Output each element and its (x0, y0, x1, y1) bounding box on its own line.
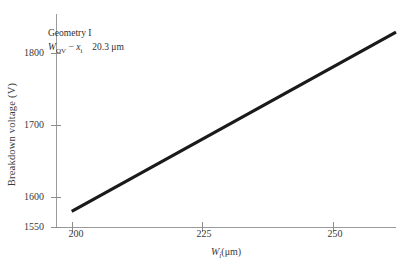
breakdown-voltage-chart: Breakdown voltage (V) 1800 1700 1600 155… (0, 0, 400, 269)
annotation-line-2: WOV − xi20.3 μm (48, 40, 124, 58)
x-axis-label-unit: (μm) (221, 246, 241, 257)
annotation-w-symbol: W (48, 42, 56, 52)
y-axis-label-text: Breakdown voltage (V) (6, 83, 17, 186)
x-axis-label-symbol: W (211, 246, 219, 257)
x-axis-label: Wi(μm) (56, 246, 396, 260)
annotation-line-1: Geometry I (48, 26, 124, 40)
annotation-x-subscript: i (80, 47, 82, 55)
annotation-value: 20.3 μm (92, 42, 123, 52)
chart-annotation: Geometry I WOV − xi20.3 μm (48, 26, 124, 58)
y-tick-label-1600: 1600 (24, 190, 44, 203)
annotation-w-subscript: OV (56, 47, 66, 55)
annotation-minus-sign: − (68, 42, 73, 52)
y-axis-label: Breakdown voltage (V) (0, 0, 22, 269)
y-tick-label-1550: 1550 (24, 220, 44, 233)
x-tick-label-250: 250 (328, 228, 343, 239)
x-tick-label-200: 200 (69, 228, 84, 239)
series-line-segment (72, 32, 396, 211)
y-tick-label-1700: 1700 (24, 118, 44, 131)
x-tick-label-225: 225 (197, 228, 212, 239)
y-tick-label-1800: 1800 (24, 46, 44, 59)
